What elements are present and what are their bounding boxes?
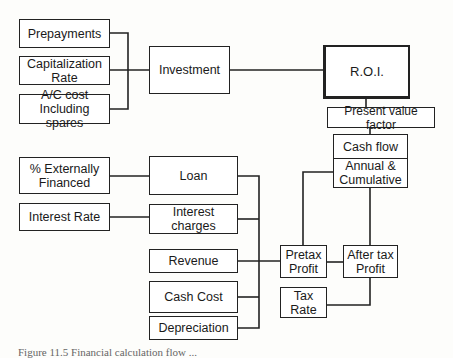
annual-cumulative-box: Annual & Cumulative (333, 158, 408, 188)
loan-box: Loan (149, 156, 238, 195)
cash-cost-box: Cash Cost (149, 281, 238, 313)
cash-flow-box: Cash flow (333, 134, 408, 160)
present-value-factor-label: Present value factor (328, 104, 434, 132)
capitalization-rate-box: Capitalization Rate (19, 56, 110, 85)
annual-cumulative-label: Annual & Cumulative (334, 159, 407, 187)
prepayments-box: Prepayments (19, 19, 110, 48)
revenue-label: Revenue (168, 254, 218, 268)
interest-charges-box: Interest charges (149, 204, 238, 234)
interest-charges-label: Interest charges (150, 205, 237, 233)
roi-box: R.O.I. (323, 45, 410, 99)
externally-financed-box: % Externally Financed (19, 157, 110, 194)
investment-box: Investment (149, 46, 230, 94)
pretax-profit-label: Pretax Profit (281, 248, 326, 276)
after-tax-profit-label: After tax Profit (344, 248, 397, 276)
present-value-factor-box: Present value factor (327, 107, 435, 128)
investment-label: Investment (159, 63, 220, 77)
interest-rate-label: Interest Rate (29, 210, 101, 224)
tax-rate-box: Tax Rate (280, 287, 327, 318)
tax-rate-label: Tax Rate (281, 289, 326, 317)
revenue-box: Revenue (149, 249, 238, 273)
prepayments-label: Prepayments (28, 27, 102, 41)
figure-caption: Figure 11.5 Financial calculation flow .… (18, 346, 197, 358)
loan-label: Loan (180, 169, 208, 183)
externally-financed-label: % Externally Financed (20, 162, 109, 190)
roi-label: R.O.I. (350, 65, 384, 79)
interest-rate-box: Interest Rate (19, 203, 110, 231)
depreciation-label: Depreciation (158, 321, 228, 335)
ac-cost-box: A/C cost Including spares (19, 94, 110, 124)
after-tax-profit-box: After tax Profit (343, 245, 398, 278)
depreciation-box: Depreciation (149, 316, 238, 340)
pretax-profit-box: Pretax Profit (280, 245, 327, 278)
cash-cost-label: Cash Cost (164, 290, 222, 304)
capitalization-rate-label: Capitalization Rate (20, 57, 109, 85)
cash-flow-label: Cash flow (343, 140, 398, 154)
ac-cost-label: A/C cost Including spares (20, 88, 109, 130)
